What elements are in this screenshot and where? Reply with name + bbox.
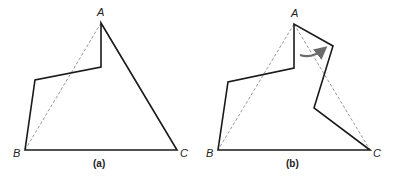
polygon-b [218, 24, 370, 150]
vertex-label-a: A [96, 6, 104, 18]
dashed-diagonal-ab [25, 23, 101, 150]
dashed-diagonal-ac [294, 24, 370, 150]
vertex-label-c: C [180, 147, 188, 159]
vertex-label-a: A [290, 7, 298, 19]
curved-arrow-icon [300, 49, 324, 56]
panel-a: A B C (a) [13, 6, 188, 169]
polygon-a [25, 23, 177, 150]
dashed-diagonal-ab [218, 24, 294, 150]
vertex-label-b: B [13, 147, 20, 159]
caption-b: (b) [286, 158, 299, 169]
diagram-canvas: A B C (a) A B C (b) [0, 0, 397, 178]
vertex-label-b: B [206, 147, 213, 159]
panel-b: A B C (b) [206, 7, 381, 169]
caption-a: (a) [93, 158, 105, 169]
vertex-label-c: C [373, 147, 381, 159]
